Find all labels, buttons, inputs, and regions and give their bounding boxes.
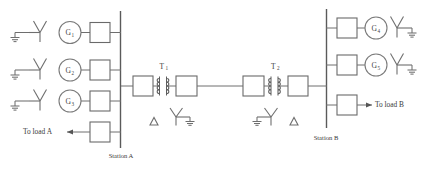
circuit-breaker-icon-load-a: [90, 122, 110, 142]
transformer-winding-icon-t2: [269, 77, 289, 96]
station-a-label: Station A: [109, 152, 134, 159]
ground-icon-g1: [11, 33, 30, 42]
feeder-load-a: To load A: [23, 122, 121, 142]
ground-icon-g5: [408, 65, 417, 74]
generator-circle-icon-g4: G 4: [365, 17, 387, 39]
generator-subscript-g1: 1: [72, 32, 75, 38]
transformer-winding-icon-t1: [157, 77, 176, 96]
generator-circle-icon-g2: G 2: [59, 59, 81, 81]
transformer-label-t1: T: [160, 62, 165, 71]
circuit-breaker-icon-t2-lv: [243, 76, 264, 96]
wye-winding-icon-g2: [29, 59, 47, 80]
generator-subscript-g3: 3: [72, 101, 75, 107]
wye-winding-icon-g4: [391, 17, 413, 38]
circuit-breaker-icon-g5: [337, 55, 357, 75]
feeder-g1: G 1: [11, 21, 122, 44]
circuit-breaker-icon-load-b: [337, 95, 357, 115]
power-system-diagram: G 1 G 2: [0, 0, 435, 170]
feeder-g5: G 5: [326, 54, 417, 77]
winding-symbol-t2-wye-grounded: [253, 108, 278, 126]
diagram-canvas: G 1 G 2: [0, 0, 435, 170]
generator-subscript-g2: 2: [72, 70, 75, 76]
circuit-breaker-icon-g3: [90, 91, 110, 111]
circuit-breaker-icon-g4: [337, 18, 357, 38]
winding-symbol-t1-delta: [150, 118, 158, 126]
arrow-icon-load-a: [67, 130, 73, 135]
ground-icon-g4: [408, 28, 417, 37]
circuit-breaker-icon-t2-hv: [288, 76, 308, 96]
wye-winding-icon-g5: [391, 54, 413, 75]
transformer-subscript-t1: 1: [166, 65, 169, 71]
transformer-label-t2: T: [271, 62, 276, 71]
feeder-g4: G 4: [326, 17, 417, 40]
tie-line-station-b-side: T 2: [243, 62, 327, 97]
load-b-label: To load B: [375, 100, 404, 109]
generator-circle-icon-g3: G 3: [59, 90, 81, 112]
tie-line-station-a-side: T 1: [121, 62, 197, 97]
feeder-g2: G 2: [11, 59, 122, 82]
feeder-g3: G 3: [11, 90, 122, 113]
generator-subscript-g5: 5: [378, 65, 381, 71]
arrow-icon-load-b: [366, 103, 372, 108]
generator-circle-icon-g5: G 5: [365, 54, 387, 76]
load-a-label: To load A: [23, 127, 53, 136]
wye-winding-icon-g3: [29, 90, 47, 111]
circuit-breaker-icon-g1: [90, 23, 110, 43]
generator-circle-icon-g1: G 1: [59, 22, 81, 44]
wye-winding-icon-g1: [29, 21, 47, 42]
ground-icon-g2: [11, 70, 30, 79]
circuit-breaker-icon-t1-lv: [176, 76, 197, 96]
circuit-breaker-icon-t1-hv: [133, 76, 153, 96]
feeder-load-b: To load B: [326, 95, 404, 115]
transformer-subscript-t2: 2: [277, 65, 280, 71]
ground-icon-g3: [11, 101, 30, 110]
winding-symbol-t2-delta: [290, 118, 298, 126]
station-b-label: Station B: [314, 134, 339, 141]
circuit-breaker-icon-g2: [90, 60, 110, 80]
generator-subscript-g4: 4: [378, 28, 381, 34]
winding-symbol-t1-wye-grounded: [170, 108, 195, 126]
